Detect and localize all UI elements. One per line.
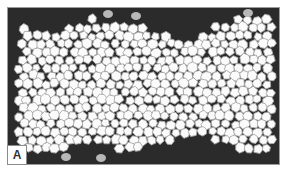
micrograph-panel	[7, 7, 280, 165]
panel-label-text: A	[13, 148, 22, 162]
cell-structure-image	[8, 8, 280, 165]
panel-label: A	[7, 145, 27, 165]
